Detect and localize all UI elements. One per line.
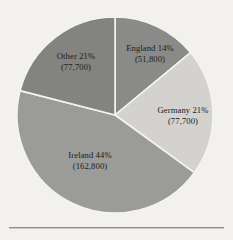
- pie-chart-figure: England 14% (51,800) Germany 21% (77,700…: [0, 0, 233, 240]
- pie-label-ireland: Ireland 44% (162,800): [68, 150, 111, 171]
- pie-label-germany-line2: (77,700): [168, 116, 198, 126]
- pie-label-england-line2: (51,800): [135, 54, 165, 64]
- pie-label-germany-line1: Germany 21%: [158, 105, 209, 115]
- pie-label-other-line2: (77,700): [61, 62, 91, 72]
- pie-label-other: Other 21% (77,700): [57, 51, 95, 72]
- pie-label-other-line1: Other 21%: [57, 51, 95, 61]
- pie-chart-svg: England 14% (51,800) Germany 21% (77,700…: [0, 0, 233, 240]
- pie-label-ireland-line1: Ireland 44%: [68, 150, 111, 160]
- figure-bottom-rule-shadow: [9, 228, 224, 229]
- pie-label-england-line1: England 14%: [126, 43, 174, 53]
- pie-label-ireland-line2: (162,800): [73, 161, 108, 171]
